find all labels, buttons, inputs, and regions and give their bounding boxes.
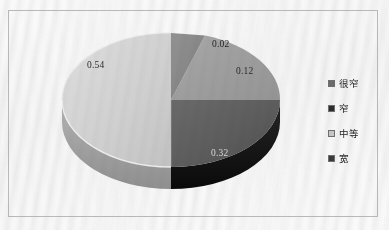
legend-swatch-icon-narrow [328, 105, 335, 112]
legend-item-wide[interactable]: 宽 [328, 149, 360, 167]
pie-chart-plot-area: 0.02 0.12 0.54 0.32 很窄 窄 中等 宽 [0, 0, 389, 230]
data-label-narrow: 0.12 [236, 66, 253, 76]
legend-item-narrow[interactable]: 窄 [328, 99, 360, 117]
legend-swatch-icon-medium [328, 130, 335, 137]
legend-swatch-icon-very-narrow [328, 80, 335, 87]
legend-label-narrow: 窄 [339, 101, 349, 115]
legend-label-very-narrow: 很窄 [339, 76, 360, 90]
chart-legend: 很窄 窄 中等 宽 [328, 74, 360, 174]
data-label-wide: 0.32 [211, 148, 228, 158]
legend-label-wide: 宽 [339, 151, 349, 165]
data-label-medium: 0.54 [87, 60, 104, 70]
data-label-very-narrow: 0.02 [212, 39, 229, 49]
legend-label-medium: 中等 [339, 126, 360, 140]
legend-swatch-icon-wide [328, 155, 335, 162]
legend-item-medium[interactable]: 中等 [328, 124, 360, 142]
chart-screenshot: 0.02 0.12 0.54 0.32 很窄 窄 中等 宽 [0, 0, 389, 230]
legend-item-very-narrow[interactable]: 很窄 [328, 74, 360, 92]
